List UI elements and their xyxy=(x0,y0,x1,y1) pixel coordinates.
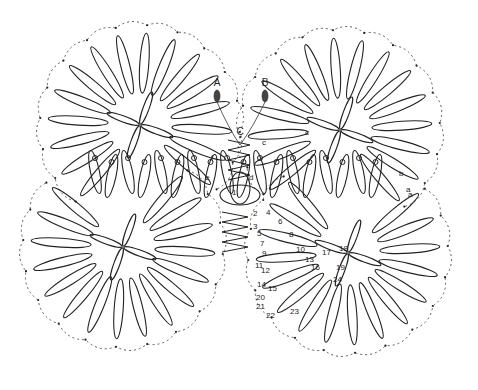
petal-ring xyxy=(372,119,432,132)
step-number-label: 12 xyxy=(261,266,270,275)
band-ring xyxy=(152,150,170,195)
petal-ring xyxy=(170,98,230,121)
petal-ring xyxy=(50,128,110,151)
band-ring xyxy=(119,150,137,195)
petal-ring xyxy=(258,226,318,249)
petal-ring xyxy=(343,40,366,100)
step-number-label: 18 xyxy=(339,244,348,253)
petal-ring xyxy=(36,208,95,239)
petal-ring xyxy=(248,128,308,141)
petal-ring xyxy=(53,86,112,117)
petal-ring xyxy=(153,220,213,243)
picot-dot xyxy=(294,337,296,339)
band-ring xyxy=(284,150,302,195)
petal-ring xyxy=(84,275,115,334)
petal-ring xyxy=(112,279,125,339)
step-number-label: 21 xyxy=(256,302,265,311)
petal-ring xyxy=(31,236,91,249)
petal-ring xyxy=(346,285,359,345)
picot-dot xyxy=(283,175,285,177)
petal-ring xyxy=(368,91,427,122)
bottom-right-flower xyxy=(245,175,452,356)
inner-ring xyxy=(138,91,155,125)
petal-ring xyxy=(138,33,151,93)
band-ring xyxy=(136,154,154,199)
inner-ring xyxy=(340,128,374,145)
inner-ring xyxy=(306,115,340,132)
inner-ring xyxy=(123,245,157,262)
petal-ring xyxy=(378,256,438,279)
picot-dot xyxy=(84,339,86,341)
step-number-label: 5 xyxy=(257,229,262,238)
inner-ring xyxy=(125,125,142,159)
band-ring xyxy=(185,150,203,195)
bottom-left-flower xyxy=(20,169,227,350)
band-ring xyxy=(334,154,352,199)
picot-dot xyxy=(246,166,248,168)
band-ring xyxy=(317,150,335,195)
petal-ring xyxy=(301,43,332,102)
step-number-label: 7 xyxy=(260,239,265,248)
picot-dot xyxy=(25,270,27,272)
step-number-label: 6 xyxy=(278,217,283,226)
picot-dot xyxy=(403,206,405,208)
petal-ring xyxy=(376,214,435,245)
inner-ring xyxy=(325,130,342,164)
petal-ring xyxy=(172,123,232,136)
petal-ring xyxy=(151,255,210,286)
center-knot xyxy=(220,185,260,205)
letter-label: e xyxy=(205,173,210,182)
band-ring xyxy=(169,154,187,199)
step-number-label: 8 xyxy=(289,230,294,239)
step-number-label: 19 xyxy=(336,263,345,272)
step-number-label: 15 xyxy=(268,284,277,293)
shuttle-icon xyxy=(214,90,220,102)
picot-dot xyxy=(54,177,56,179)
petal-ring xyxy=(168,133,227,164)
step-number-label: 2 xyxy=(253,209,258,218)
petal-ring xyxy=(329,38,342,98)
step-number-label: 1 xyxy=(232,188,237,197)
step-number-label: 4 xyxy=(266,208,271,217)
step-number-label: 16 xyxy=(311,263,320,272)
petal-ring xyxy=(126,277,149,337)
letter-label: b xyxy=(399,169,404,178)
center-label: C xyxy=(236,126,243,137)
picot-dot xyxy=(247,259,249,261)
petal-ring xyxy=(148,38,179,97)
letter-label: d xyxy=(249,173,253,182)
step-number-label: 23 xyxy=(290,307,299,316)
shuttle-label: B xyxy=(262,77,269,88)
petal-ring xyxy=(380,242,440,255)
step-number-label: 9 xyxy=(262,249,267,258)
inner-ring xyxy=(108,247,125,281)
inner-ring xyxy=(346,219,363,253)
step-number-label: 14 xyxy=(257,280,266,289)
picot-dot xyxy=(440,214,442,216)
letter-label: c xyxy=(262,138,266,147)
tatting-diagram: ABCfccdebaa12345678910111213141516171819… xyxy=(0,0,478,390)
letter-label: a xyxy=(406,185,411,194)
petal-ring xyxy=(155,245,215,258)
step-number-label: 24 xyxy=(333,275,342,284)
step-number-label: 17 xyxy=(322,248,331,257)
inner-ring xyxy=(89,232,123,249)
petal-ring xyxy=(48,114,108,127)
inner-ring xyxy=(140,123,174,140)
picot-dot xyxy=(176,31,178,33)
letter-label: c xyxy=(305,128,309,137)
petal-ring xyxy=(33,250,93,273)
petal-ring xyxy=(356,281,387,340)
inner-ring xyxy=(106,110,140,127)
step-number-label: 20 xyxy=(256,293,265,302)
picot-dot xyxy=(236,100,238,102)
petal-ring xyxy=(113,35,136,95)
inner-ring xyxy=(338,96,355,130)
step-number-label: 10 xyxy=(296,245,305,254)
shuttle-label: A xyxy=(214,77,221,88)
shuttle-icon xyxy=(262,90,268,102)
letter-label: f xyxy=(211,153,214,162)
picot-dot xyxy=(392,44,394,46)
petal-ring xyxy=(370,133,430,156)
picot-dot xyxy=(439,122,441,124)
